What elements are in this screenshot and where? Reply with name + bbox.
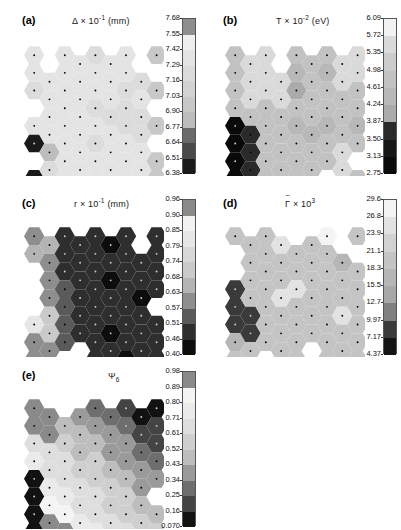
colorbar-tick-mark xyxy=(180,277,182,278)
hex-center-dot-icon xyxy=(64,478,66,480)
colorbar-segment xyxy=(384,303,396,320)
hex-center-dot-icon xyxy=(265,306,267,308)
hex-center-dot-icon xyxy=(326,54,328,56)
hex-center-dot-icon xyxy=(64,288,66,290)
hex-center-dot-icon xyxy=(125,253,127,255)
hex-center-dot-icon xyxy=(110,332,112,334)
colorbar-segment xyxy=(384,234,396,251)
hex-center-dot-icon xyxy=(140,451,142,453)
colorbar-tick-mark xyxy=(180,142,182,143)
panel-a-title-symbol: Δ xyxy=(72,16,78,26)
panel-a-title: Δ × 10-1 (mm) xyxy=(72,16,130,26)
panel-d-label: (d) xyxy=(223,197,237,209)
colorbar-tick-mark xyxy=(180,433,182,434)
colorbar-segment xyxy=(183,450,195,466)
colorbar-segment xyxy=(384,200,396,217)
colorbar-tick-label: 0.61 xyxy=(165,429,180,437)
hex-center-dot-icon xyxy=(280,151,282,153)
hex-center-dot-icon xyxy=(265,253,267,255)
hex-center-dot-icon xyxy=(94,235,96,237)
hex-center-dot-icon xyxy=(125,288,127,290)
colorbar-tick-mark xyxy=(180,464,182,465)
hex-center-dot-icon xyxy=(250,116,252,118)
hex-center-dot-icon xyxy=(94,478,96,480)
hex-center-dot-icon xyxy=(250,315,252,317)
colorbar-segment xyxy=(183,419,195,435)
colorbar-segment xyxy=(384,122,396,139)
colorbar-tick-mark xyxy=(381,251,383,252)
colorbar-tick-mark xyxy=(180,65,182,66)
hex-center-dot-icon xyxy=(311,134,313,136)
colorbar-tick-mark xyxy=(381,268,383,269)
hex-center-dot-icon xyxy=(33,496,35,498)
colorbar-tick-mark xyxy=(180,215,182,216)
hex-center-dot-icon xyxy=(326,271,328,273)
colorbar-tick-mark xyxy=(381,156,383,157)
hex-center-dot-icon xyxy=(250,134,252,136)
colorbar-tick-label: 4.61 xyxy=(366,83,381,91)
hex-center-dot-icon xyxy=(295,306,297,308)
colorbar-tick-label: 0.80 xyxy=(165,398,180,406)
hex-center-dot-icon xyxy=(140,116,142,118)
colorbar-tick-label: 0.74 xyxy=(165,257,180,265)
hex-center-dot-icon xyxy=(125,496,127,498)
colorbar-tick-mark xyxy=(381,104,383,105)
hex-center-dot-icon xyxy=(64,513,66,515)
colorbar-tick-label: 2.75 xyxy=(366,169,381,177)
hex-center-dot-icon xyxy=(234,54,236,56)
hex-center-dot-icon xyxy=(110,244,112,246)
colorbar-segment xyxy=(384,53,396,70)
panel-b-title-times: × xyxy=(284,16,289,26)
panel-c-hex-svg xyxy=(12,215,164,357)
colorbar-tick-label: 7.68 xyxy=(165,14,180,22)
hex-center-dot-icon xyxy=(49,350,51,352)
hex-center-dot-icon xyxy=(234,235,236,237)
hex-center-dot-icon xyxy=(250,279,252,281)
hex-center-dot-icon xyxy=(110,151,112,153)
hex-center-dot-icon xyxy=(295,253,297,255)
panel-c: (c) r × 10-1 (mm) 0.960.900.850.790.740.… xyxy=(0,185,200,357)
colorbar-segment xyxy=(384,286,396,303)
hex-center-dot-icon xyxy=(341,315,343,317)
hex-center-dot-icon xyxy=(295,143,297,145)
colorbar-tick-mark xyxy=(180,292,182,293)
colorbar-tick-label: 6.90 xyxy=(165,107,180,115)
hex-center-dot-icon xyxy=(64,306,66,308)
colorbar-segment xyxy=(183,35,195,51)
hex-center-dot-icon xyxy=(280,98,282,100)
panel-a-title-exponent: -1 xyxy=(99,14,105,21)
colorbar-tick-mark xyxy=(381,87,383,88)
hex-center-dot-icon xyxy=(64,90,66,92)
hex-center-dot-icon xyxy=(295,54,297,56)
panel-e-title-symbol: Ψ xyxy=(108,371,116,381)
hex-center-dot-icon xyxy=(250,63,252,65)
hex-center-dot-icon xyxy=(49,416,51,418)
colorbar-tick-mark xyxy=(180,354,182,355)
hex-center-dot-icon xyxy=(33,143,35,145)
hex-center-dot-icon xyxy=(49,116,51,118)
hex-center-dot-icon xyxy=(79,134,81,136)
hex-center-dot-icon xyxy=(326,72,328,74)
colorbar-tick-label: 0.71 xyxy=(165,414,180,422)
hex-center-dot-icon xyxy=(125,324,127,326)
panel-a: (a) Δ × 10-1 (mm) 7.687.557.427.297.167.… xyxy=(0,0,200,185)
hex-center-dot-icon xyxy=(295,324,297,326)
hex-center-dot-icon xyxy=(49,262,51,264)
colorbar-tick-mark xyxy=(180,480,182,481)
colorbar-tick-mark xyxy=(180,308,182,309)
hex-center-dot-icon xyxy=(280,297,282,299)
hex-center-dot-icon xyxy=(79,81,81,83)
colorbar-segment xyxy=(183,97,195,113)
hex-center-dot-icon xyxy=(280,116,282,118)
colorbar-tick-label: 0.51 xyxy=(165,319,180,327)
hex-center-dot-icon xyxy=(94,341,96,343)
hex-center-dot-icon xyxy=(295,125,297,127)
hex-center-dot-icon xyxy=(295,160,297,162)
hex-center-dot-icon xyxy=(280,244,282,246)
hex-center-dot-icon xyxy=(250,350,252,352)
hex-center-dot-icon xyxy=(326,143,328,145)
panel-b-colorbar-strip xyxy=(383,18,397,173)
hex-center-dot-icon xyxy=(125,107,127,109)
colorbar-tick-mark xyxy=(180,96,182,97)
hex-center-dot-icon xyxy=(140,297,142,299)
